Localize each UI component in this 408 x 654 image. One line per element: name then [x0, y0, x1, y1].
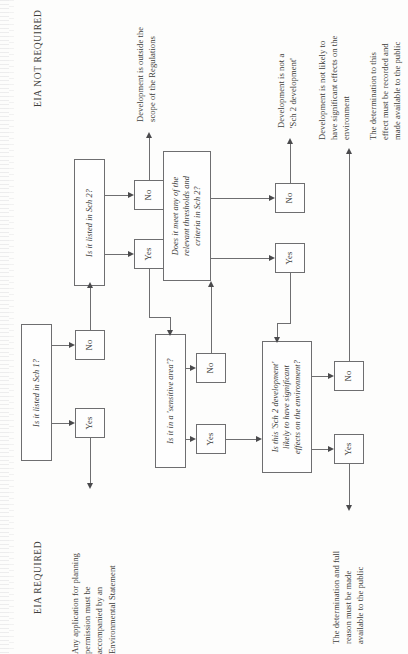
decision-box-sch2-label: Is it listed in Sch 2? — [84, 189, 95, 257]
decision-box-significant-effects[interactable]: Is this 'Sch 2 development' likely to ha… — [262, 341, 312, 473]
answer-box-significant-no-label: No — [343, 371, 354, 382]
answer-box-sch1-no-label: No — [84, 340, 95, 351]
arrowhead-thresholds-to-yes — [269, 255, 275, 261]
answer-box-sch2-no[interactable]: No — [134, 180, 164, 210]
answer-box-sch1-yes-label: Yes — [84, 416, 95, 429]
arrowhead-sensitive-to-yes — [190, 436, 196, 442]
answer-box-sch2-yes[interactable]: Yes — [134, 239, 164, 269]
answer-box-sch1-no[interactable]: No — [75, 330, 105, 360]
scan-edge-artifact-secondary — [9, 0, 14, 654]
arrowhead-sch1-to-no — [69, 342, 75, 348]
connector-sch2yes-down — [149, 269, 150, 317]
arrowhead-sch1no-to-sch2 — [87, 282, 93, 288]
connector-sensitiveyes-to-significant — [226, 439, 258, 440]
heading-eia-not-required: EIA NOT REQUIRED — [32, 10, 44, 107]
decision-box-sensitive-area-label: Is it in a 'sensitive area'? — [165, 358, 176, 444]
connector-thresholdsyes-down — [290, 273, 291, 323]
outcome-not-sch2-development: Development is not a 'Sch 2 development' — [275, 54, 299, 128]
connector-sch2yes-across — [149, 317, 171, 318]
answer-box-sensitive-yes-label: Yes — [205, 432, 216, 445]
answer-box-thresholds-yes[interactable]: Yes — [275, 243, 305, 273]
arrowhead-sensitiveyes-to-significant — [256, 436, 262, 442]
arrowhead-thresholdsno-to-not-sch2 — [287, 138, 293, 144]
arrowhead-sch1-to-yes — [69, 420, 75, 426]
connector-significantno-to-not-significant — [349, 152, 350, 361]
outcome-publish-determination: The determination and full reason must b… — [330, 551, 367, 644]
arrowhead-significant-to-no — [328, 373, 334, 379]
arrowhead-sch2no-to-outside-scope — [146, 132, 152, 138]
connector-sch1yes-to-es-outcome — [90, 438, 91, 483]
arrowhead-sensitiveno-to-thresholds — [208, 281, 214, 287]
answer-box-sch1-yes[interactable]: Yes — [75, 408, 105, 438]
decision-box-sch2[interactable]: Is it listed in Sch 2? — [74, 159, 105, 286]
connector-thresholds-to-yes — [211, 258, 271, 259]
answer-box-thresholds-no-label: No — [284, 193, 295, 204]
answer-box-sensitive-no-label: No — [205, 363, 216, 374]
connector-thresholdsno-to-not-sch2 — [290, 142, 291, 184]
answer-box-sensitive-yes[interactable]: Yes — [196, 424, 226, 454]
heading-eia-required: EIA REQUIRED — [32, 541, 44, 614]
connector-sch2yes-into-sensitive — [170, 317, 171, 330]
answer-box-sch2-yes-label: Yes — [143, 247, 154, 260]
connector-sch2-to-yes — [105, 254, 130, 255]
arrowhead-sensitive-to-no — [190, 365, 196, 371]
connector-sch2no-to-outside-scope — [149, 136, 150, 180]
outcome-outside-scope: Development is outside the scope of the … — [134, 27, 158, 122]
connector-thresholds-to-no — [211, 198, 271, 199]
arrowhead-sch2-to-no — [128, 192, 134, 198]
connector-thresholdsyes-into-significant — [277, 323, 278, 337]
answer-box-thresholds-no[interactable]: No — [275, 183, 305, 213]
decision-box-sch1-label: Is it listed in Sch 1? — [31, 359, 42, 427]
answer-box-significant-yes[interactable]: Yes — [334, 434, 364, 464]
decision-box-thresholds-label: Does it meet any of the relevant thresho… — [171, 176, 203, 256]
answer-box-sensitive-no[interactable]: No — [196, 353, 226, 383]
arrowhead-significantno-to-not-significant — [346, 148, 352, 154]
scan-edge-artifact — [0, 0, 9, 654]
outcome-not-significant-effects: Development is not likely to have signif… — [316, 36, 353, 140]
decision-box-significant-effects-label: Is this 'Sch 2 development' likely to ha… — [271, 360, 303, 454]
answer-box-significant-yes-label: Yes — [343, 442, 354, 455]
connector-sch1no-to-sch2 — [90, 286, 91, 330]
arrowhead-sch2yes-into-sensitive — [167, 330, 173, 336]
decision-box-sch1[interactable]: Is it listed in Sch 1? — [21, 324, 52, 461]
connector-sensitiveno-to-thresholds — [211, 285, 212, 353]
flowchart-page: EIA NOT REQUIRED EIA REQUIRED Is it list… — [0, 0, 408, 654]
arrowhead-sch1yes-to-es-outcome — [87, 483, 93, 489]
connector-significantyes-to-publish — [349, 464, 350, 505]
outcome-record-determination: The determination to this effect must be… — [367, 42, 404, 140]
arrowhead-thresholds-to-no — [269, 195, 275, 201]
answer-box-thresholds-yes-label: Yes — [284, 251, 295, 264]
connector-thresholdsyes-across — [277, 323, 291, 324]
decision-box-thresholds[interactable]: Does it meet any of the relevant thresho… — [163, 151, 211, 281]
outcome-environmental-statement: Any application for planning permission … — [69, 553, 118, 654]
arrowhead-thresholdsyes-into-significant — [274, 337, 280, 343]
arrowhead-significant-to-yes — [328, 446, 334, 452]
decision-box-sensitive-area[interactable]: Is it in a 'sensitive area'? — [155, 334, 186, 468]
arrowhead-sch2-to-yes — [128, 251, 134, 257]
connector-sch2-to-no — [105, 195, 130, 196]
answer-box-sch2-no-label: No — [143, 190, 154, 201]
answer-box-significant-no[interactable]: No — [334, 361, 364, 391]
arrowhead-significantyes-to-publish — [346, 505, 352, 511]
